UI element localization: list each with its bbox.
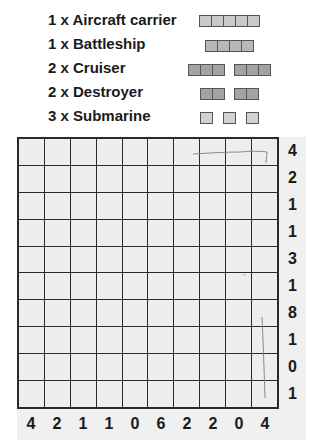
grid-cell[interactable] [45,247,70,273]
grid-cell[interactable] [45,381,70,407]
grid-cell[interactable] [45,354,70,380]
grid-cell[interactable] [148,381,173,407]
grid-cell[interactable] [226,300,251,326]
grid-cell[interactable] [148,193,173,219]
grid-cell[interactable] [226,381,251,407]
grid-cell[interactable] [97,381,122,407]
grid-cell[interactable] [148,220,173,246]
grid-cell[interactable] [174,300,199,326]
grid-cell[interactable] [97,220,122,246]
grid-cell[interactable] [123,139,148,165]
grid-cell[interactable] [123,166,148,192]
grid-cell[interactable] [19,139,44,165]
grid-cell[interactable] [97,247,122,273]
grid-cell[interactable] [252,247,277,273]
grid-cell[interactable] [226,273,251,299]
grid-cell[interactable] [71,220,96,246]
grid-cell[interactable] [19,166,44,192]
grid-cell[interactable] [200,381,225,407]
grid-cell[interactable] [45,300,70,326]
grid-cell[interactable] [200,354,225,380]
grid-cell[interactable] [19,193,44,219]
grid-cell[interactable] [174,354,199,380]
grid-cell[interactable] [226,193,251,219]
grid-cell[interactable] [123,381,148,407]
grid-cell[interactable] [200,193,225,219]
grid-cell[interactable] [97,193,122,219]
grid-cell[interactable] [71,300,96,326]
grid-cell[interactable] [148,354,173,380]
grid-cell[interactable] [97,273,122,299]
grid-cell[interactable] [71,193,96,219]
grid-cell[interactable] [97,354,122,380]
grid-cell[interactable] [45,193,70,219]
grid-cell[interactable] [252,354,277,380]
grid-cell[interactable] [123,220,148,246]
grid-cell[interactable] [226,166,251,192]
grid-cell[interactable] [97,139,122,165]
grid-cell[interactable] [200,220,225,246]
grid-cell[interactable] [123,327,148,353]
grid-cell[interactable] [252,166,277,192]
grid-cell[interactable] [252,139,277,165]
grid-cell[interactable] [252,327,277,353]
grid-cell[interactable] [200,327,225,353]
grid-cell[interactable] [71,354,96,380]
grid-cell[interactable] [226,220,251,246]
grid-cell[interactable] [252,193,277,219]
grid-cell[interactable] [123,273,148,299]
grid-cell[interactable] [71,273,96,299]
grid-cell[interactable] [71,139,96,165]
grid-cell[interactable] [19,300,44,326]
grid-cell[interactable] [19,247,44,273]
grid-cell[interactable] [148,166,173,192]
grid-cell[interactable] [226,354,251,380]
grid-cell[interactable] [252,300,277,326]
grid-cell[interactable] [45,220,70,246]
grid-cell[interactable] [252,220,277,246]
grid-cell[interactable] [174,220,199,246]
grid-cell[interactable] [45,166,70,192]
grid-cell[interactable] [123,300,148,326]
grid-cell[interactable] [226,247,251,273]
grid-cell[interactable] [200,247,225,273]
grid-cell[interactable] [174,381,199,407]
grid-cell[interactable] [123,354,148,380]
grid-cell[interactable] [174,247,199,273]
grid-cell[interactable] [97,327,122,353]
grid-cell[interactable] [252,381,277,407]
grid-cell[interactable] [200,300,225,326]
grid-cell[interactable] [71,327,96,353]
grid-cell[interactable] [174,273,199,299]
grid-cell[interactable] [45,327,70,353]
grid-cell[interactable] [19,327,44,353]
grid-cell[interactable] [148,300,173,326]
grid-cell[interactable] [148,247,173,273]
grid-cell[interactable] [19,354,44,380]
grid-cell[interactable] [45,273,70,299]
grid-cell[interactable] [71,166,96,192]
grid-cell[interactable] [45,139,70,165]
grid-cell[interactable] [200,139,225,165]
grid-cell[interactable] [148,327,173,353]
grid-cell[interactable] [123,193,148,219]
grid-cell[interactable] [226,139,251,165]
grid-cell[interactable] [19,273,44,299]
grid-cell[interactable] [148,273,173,299]
grid-cell[interactable] [19,220,44,246]
grid-cell[interactable] [174,193,199,219]
grid-cell[interactable] [71,247,96,273]
grid-cell[interactable] [226,327,251,353]
grid-cell[interactable] [252,273,277,299]
grid-cell[interactable] [174,139,199,165]
grid-cell[interactable] [19,381,44,407]
grid-cell[interactable] [123,247,148,273]
grid-cell[interactable] [71,381,96,407]
grid-cell[interactable] [200,273,225,299]
grid-cell[interactable] [97,300,122,326]
grid-cell[interactable] [174,166,199,192]
grid-cell[interactable] [97,166,122,192]
grid-cell[interactable] [200,166,225,192]
grid-cell[interactable] [174,327,199,353]
grid-cell[interactable] [148,139,173,165]
